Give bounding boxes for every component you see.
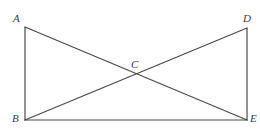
vertex-label-a: A [13,13,20,24]
vertex-label-d: D [243,13,251,24]
vertex-label-e: E [250,113,257,124]
vertex-label-b: B [12,113,19,124]
figure-canvas [0,0,260,136]
vertex-label-c: C [131,59,138,70]
geometry-figure: A D B E C [0,0,260,136]
segment-group [25,27,247,120]
